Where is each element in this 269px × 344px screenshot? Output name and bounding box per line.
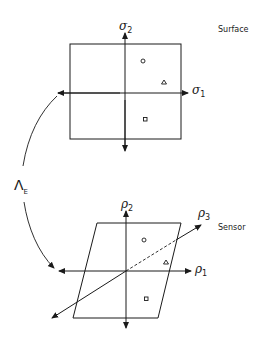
rho3-axis-front — [52, 271, 126, 318]
surface-title: Surface — [218, 25, 249, 34]
square-marker — [144, 118, 148, 122]
mapping-curve-upper — [23, 96, 57, 166]
mapping-curve-lower — [24, 202, 54, 268]
rho3-label: ρ3 — [197, 206, 210, 222]
lambda-e-label: ΛE — [14, 177, 28, 196]
triangle-marker — [162, 80, 167, 84]
circle-marker — [141, 59, 145, 63]
rho1-label: ρ1 — [194, 262, 207, 278]
circle-marker — [142, 238, 146, 242]
surface-to-sensor-diagram: σ2 σ1 Surface ΛE ρ2 ρ1 — [0, 0, 269, 344]
sigma1-label: σ1 — [192, 83, 205, 99]
sensor-title: Sensor — [218, 223, 246, 232]
square-marker — [145, 297, 149, 301]
mapping-transform: ΛE — [14, 96, 57, 268]
surface-panel: σ2 σ1 Surface — [58, 19, 249, 151]
sigma2-label: σ2 — [119, 19, 132, 35]
triangle-marker — [164, 260, 169, 264]
sensor-panel: ρ2 ρ1 ρ3 Sensor — [52, 197, 246, 328]
rho3-axis-hidden — [126, 240, 176, 271]
rho2-label: ρ2 — [120, 197, 133, 213]
